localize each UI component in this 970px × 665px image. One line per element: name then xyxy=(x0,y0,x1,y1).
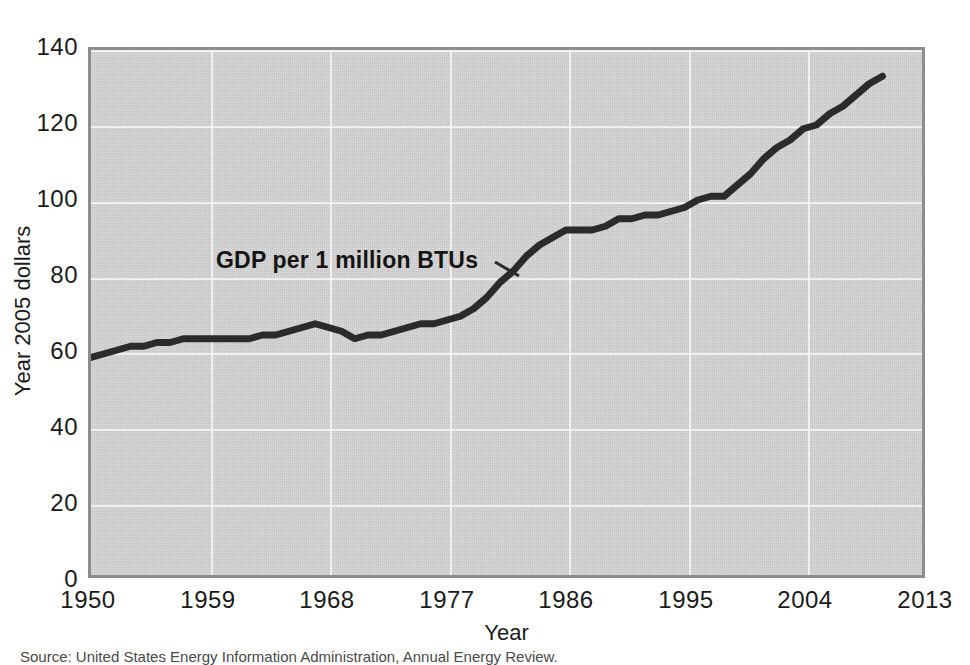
series-annotation-label: GDP per 1 million BTUs xyxy=(216,247,478,274)
plot-area xyxy=(88,47,925,578)
y-axis-tick-label: 120 xyxy=(8,111,78,135)
x-axis-tick-label: 1968 xyxy=(267,588,387,612)
data-series-line xyxy=(91,50,922,575)
source-note: Source: United States Energy Information… xyxy=(20,648,950,665)
x-axis-tick-label: 1950 xyxy=(28,588,148,612)
y-axis-tick-label: 140 xyxy=(8,35,78,59)
y-axis-title: Year 2005 dollars xyxy=(12,151,34,471)
x-axis-tick-label: 1995 xyxy=(626,588,746,612)
x-axis-title: Year xyxy=(88,622,925,644)
x-axis-tick-label: 2013 xyxy=(865,588,970,612)
x-axis-tick-label: 1959 xyxy=(148,588,268,612)
x-axis-tick-label: 2004 xyxy=(745,588,865,612)
x-axis-tick-label: 1977 xyxy=(387,588,507,612)
y-axis-tick-label: 20 xyxy=(8,491,78,515)
x-axis-tick-label: 1986 xyxy=(506,588,626,612)
